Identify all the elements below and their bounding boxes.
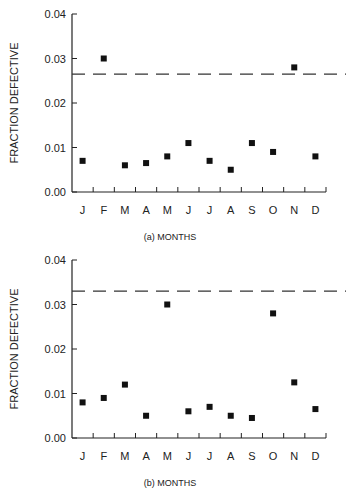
- y-tick-label: 0.02: [45, 343, 66, 355]
- data-point: [249, 415, 255, 421]
- y-tick-label: 0.01: [45, 142, 66, 154]
- chart-b-plot: 0.000.010.020.030.04JFMAMJJASONDFRACTION…: [0, 248, 348, 496]
- data-point: [143, 160, 149, 166]
- data-point: [122, 382, 128, 388]
- x-tick-label: S: [248, 204, 255, 216]
- data-point: [101, 395, 107, 401]
- data-point: [122, 162, 128, 168]
- data-point: [80, 399, 86, 405]
- data-point: [228, 167, 234, 173]
- x-tick-label: F: [100, 450, 107, 462]
- y-tick-label: 0.01: [45, 388, 66, 400]
- data-point: [207, 404, 213, 410]
- y-tick-label: 0.03: [45, 299, 66, 311]
- data-point: [270, 149, 276, 155]
- x-tick-label: A: [142, 204, 150, 216]
- data-point: [312, 406, 318, 412]
- x-tick-label: D: [311, 204, 319, 216]
- data-point: [228, 413, 234, 419]
- chart-caption: (a) MONTHS: [144, 232, 197, 242]
- data-point: [101, 56, 107, 62]
- data-point: [270, 310, 276, 316]
- chart-caption: (b) MONTHS: [144, 478, 197, 488]
- x-tick-label: O: [269, 204, 278, 216]
- data-point: [185, 140, 191, 146]
- data-point: [143, 413, 149, 419]
- y-tick-label: 0.00: [45, 186, 66, 198]
- x-tick-label: A: [227, 204, 235, 216]
- x-tick-label: J: [186, 204, 192, 216]
- chart-a-plot: 0.000.010.020.030.04JFMAMJJASONDFRACTION…: [0, 0, 348, 248]
- y-tick-label: 0.04: [45, 254, 66, 266]
- data-point: [164, 302, 170, 308]
- data-point: [249, 140, 255, 146]
- data-point: [185, 408, 191, 414]
- chart-b: 0.000.010.020.030.04JFMAMJJASONDFRACTION…: [0, 248, 348, 496]
- x-tick-label: J: [207, 204, 213, 216]
- x-tick-label: J: [80, 204, 86, 216]
- data-point: [164, 153, 170, 159]
- x-tick-label: A: [142, 450, 150, 462]
- x-tick-label: M: [120, 204, 129, 216]
- data-point: [207, 158, 213, 164]
- x-tick-label: O: [269, 450, 278, 462]
- x-tick-label: M: [163, 450, 172, 462]
- x-tick-label: D: [311, 450, 319, 462]
- data-point: [291, 64, 297, 70]
- chart-a: 0.000.010.020.030.04JFMAMJJASONDFRACTION…: [0, 0, 348, 248]
- data-point: [312, 153, 318, 159]
- y-tick-label: 0.03: [45, 53, 66, 65]
- y-axis-label: FRACTION DEFECTIVE: [8, 42, 20, 163]
- data-point: [80, 158, 86, 164]
- y-tick-label: 0.04: [45, 8, 66, 20]
- x-tick-label: N: [290, 204, 298, 216]
- x-tick-label: F: [100, 204, 107, 216]
- y-tick-label: 0.00: [45, 432, 66, 444]
- x-tick-label: M: [163, 204, 172, 216]
- y-axis-label: FRACTION DEFECTIVE: [8, 288, 20, 409]
- x-tick-label: J: [207, 450, 213, 462]
- y-tick-label: 0.02: [45, 97, 66, 109]
- x-tick-label: J: [186, 450, 192, 462]
- x-tick-label: J: [80, 450, 86, 462]
- x-tick-label: A: [227, 450, 235, 462]
- x-tick-label: N: [290, 450, 298, 462]
- x-tick-label: M: [120, 450, 129, 462]
- x-tick-label: S: [248, 450, 255, 462]
- data-point: [291, 379, 297, 385]
